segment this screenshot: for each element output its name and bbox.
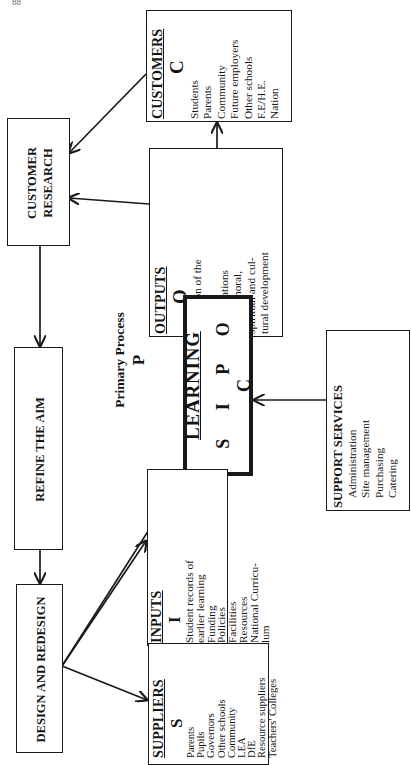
inputs-letter: I <box>166 474 183 643</box>
inputs-title: INPUTS <box>149 474 165 643</box>
page-number: 88 <box>12 0 21 7</box>
support-item: Catering <box>386 335 399 508</box>
customers-letter: C <box>167 15 187 119</box>
customer-item: Other schools <box>242 15 255 119</box>
suppliers-title: SUPPLIERS <box>151 648 167 758</box>
customer-item: Students <box>188 15 201 119</box>
output-item: tural development <box>258 153 271 334</box>
input-item: earlier learning <box>195 474 206 643</box>
customer-research-line-1: CUSTOMER <box>24 147 40 219</box>
primary-process-letter: P <box>129 285 149 435</box>
customer-item: Future employers <box>228 15 241 119</box>
support-item: Site management <box>359 335 372 508</box>
sipoc-acronym: S I P O C <box>213 299 255 472</box>
input-item: lum <box>260 474 271 643</box>
support-item: Administration <box>346 335 359 508</box>
input-item: National Curricu- <box>249 474 260 643</box>
customer-item: Community <box>215 15 228 119</box>
customers-title: CUSTOMERS <box>150 15 166 119</box>
supplier-item: Teachers' Colleges <box>268 648 278 758</box>
support-services-title: SUPPORT SERVICES <box>331 335 346 508</box>
design-and-redesign-box: DESIGN AND REDESIGN <box>16 584 63 753</box>
customer-item: F.E/H.E. <box>255 15 268 119</box>
refine-the-aim-box: REFINE THE AIM <box>14 347 63 550</box>
learning-title: LEARNING <box>182 331 204 440</box>
customer-item: Nation <box>268 15 281 119</box>
support-services-box: SUPPORT SERVICES Administration Site man… <box>326 330 410 511</box>
design-and-redesign-label: DESIGN AND REDESIGN <box>33 597 49 743</box>
primary-process-label: Primary Process P <box>112 285 172 435</box>
customer-research-box: CUSTOMER RESEARCH <box>7 118 70 246</box>
suppliers-letter: S <box>168 648 185 758</box>
customer-research-line-2: RESEARCH <box>40 148 56 217</box>
customer-item: Parents <box>201 15 214 119</box>
customers-box: CUSTOMERS C Students Parents Community F… <box>146 10 292 122</box>
support-item: Purchasing <box>373 335 386 508</box>
learning-box: LEARNING S I P O C <box>183 295 253 476</box>
suppliers-box: SUPPLIERS S Parents Pupils Governors Oth… <box>148 643 269 765</box>
refine-the-aim-label: REFINE THE AIM <box>32 397 48 502</box>
primary-process-title: Primary Process <box>112 285 128 435</box>
inputs-box: INPUTS I Student records of earlier lear… <box>147 469 228 646</box>
